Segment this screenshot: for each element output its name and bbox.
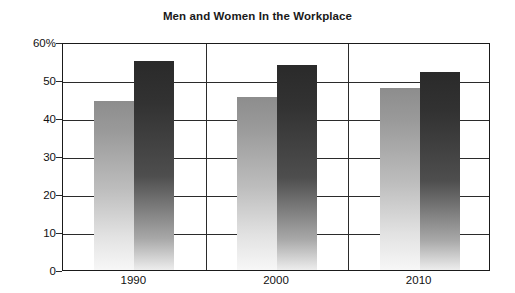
y-axis: 0102030405060% [0,0,56,293]
bar-1990-dark-series [134,61,174,270]
y-tick-label: 50 [4,75,56,87]
y-tick-label: 0 [4,265,56,277]
x-tick-label: 1990 [121,274,147,286]
bar-1990-light-series [94,101,134,270]
y-tick-mark [56,119,62,120]
plot-area [62,43,490,271]
y-tick-label: 40 [4,113,56,125]
y-tick-mark [56,233,62,234]
x-tick-label: 2000 [263,274,289,286]
bar-2000-light-series [237,97,277,270]
y-tick-mark [56,81,62,82]
y-tick-mark [56,43,62,44]
bar-2010-light-series [380,88,420,270]
chart-title: Men and Women In the Workplace [0,10,515,22]
y-tick-label: 10 [4,227,56,239]
y-tick-mark [56,195,62,196]
y-tick-mark [56,271,62,272]
y-tick-label: 20 [4,189,56,201]
gridline-vertical [206,44,207,270]
bar-2000-dark-series [277,65,317,270]
gridline-vertical [348,44,349,270]
y-tick-label: 60% [4,37,56,49]
x-tick-label: 2010 [406,274,432,286]
y-tick-mark [56,157,62,158]
y-tick-label: 30 [4,151,56,163]
bar-chart: Men and Women In the Workplace 010203040… [0,0,515,293]
bar-2010-dark-series [420,72,460,270]
